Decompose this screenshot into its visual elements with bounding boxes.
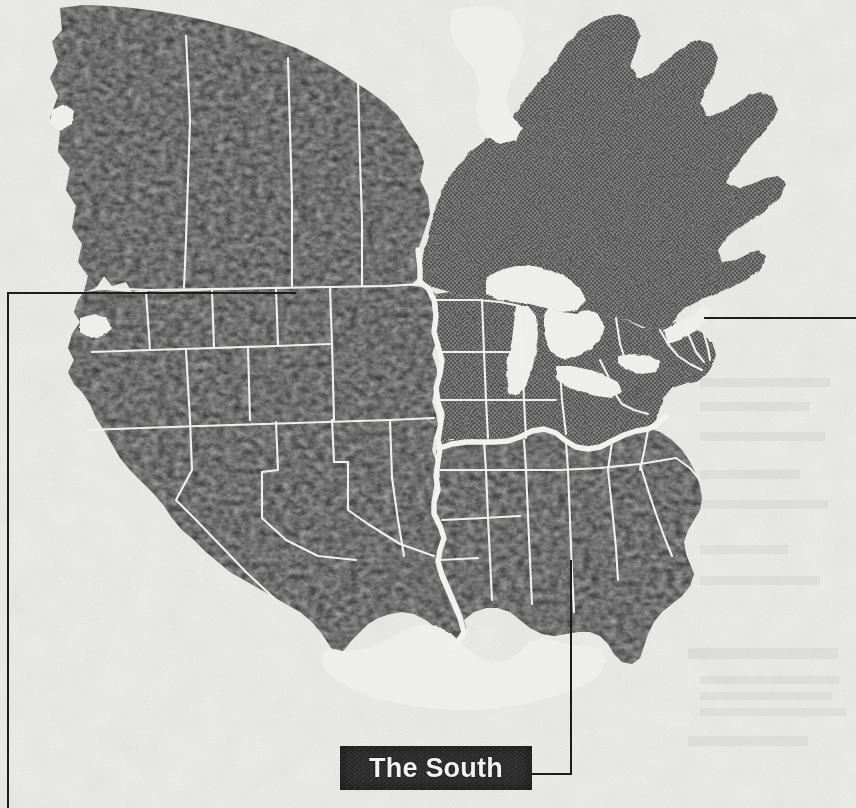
north-america-map bbox=[0, 0, 856, 808]
map-figure bbox=[0, 0, 856, 808]
region-label-text: The South bbox=[369, 753, 503, 784]
region-label-box: The South bbox=[340, 746, 532, 790]
callout-leader-horizontal bbox=[532, 773, 572, 775]
page-rule-right bbox=[704, 317, 856, 319]
callout-leader-vertical bbox=[570, 560, 572, 775]
page-rule-top-left bbox=[7, 292, 296, 294]
region-canada-west bbox=[50, 5, 430, 292]
page-rule-left bbox=[7, 292, 9, 808]
